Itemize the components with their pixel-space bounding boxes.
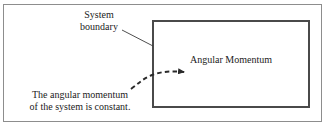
caption-line-1: The angular momentum xyxy=(18,89,142,101)
system-boundary-label: System boundary xyxy=(56,9,142,33)
caption-text: The angular momentum of the system is co… xyxy=(18,89,142,113)
caption-line-2: of the system is constant. xyxy=(18,101,142,113)
figure-root: System boundary Angular Momentum The ang… xyxy=(0,0,329,126)
angular-momentum-label: Angular Momentum xyxy=(190,54,272,65)
system-boundary-label-line-1: System xyxy=(56,9,142,21)
system-boundary-label-line-2: boundary xyxy=(56,21,142,33)
